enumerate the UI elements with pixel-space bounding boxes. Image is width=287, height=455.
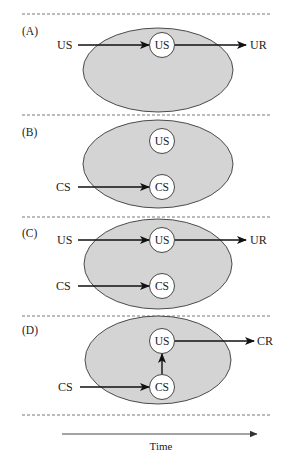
panel-c-output-ur: UR (250, 233, 267, 247)
panel-a-output-ur: UR (250, 38, 267, 52)
panel-b-input-cs: CS (56, 180, 71, 194)
panel-d-label: (D) (22, 324, 38, 337)
panel-d-output-cr: CR (257, 334, 273, 348)
conditioning-diagram: (A) US US UR (B) US CS CS (C) US US UR C… (0, 0, 287, 455)
panel-b-node-cs-label: CS (155, 181, 169, 193)
panel-c-label: (C) (22, 227, 38, 240)
panel-c-node-cs-label: CS (155, 280, 169, 292)
panel-d: (D) US CR CS CS (22, 316, 273, 404)
panel-d-input-cs: CS (58, 380, 73, 394)
panel-b: (B) US CS CS (22, 120, 233, 208)
time-axis: Time (62, 434, 257, 452)
panel-c: (C) US US UR CS CS (22, 219, 267, 309)
panel-a: (A) US US UR (22, 25, 267, 112)
panel-c-node-us-label: US (155, 234, 170, 246)
time-label: Time (150, 440, 173, 452)
panel-b-label: (B) (22, 126, 38, 139)
panel-a-label: (A) (22, 25, 38, 38)
panel-b-node-us-label: US (155, 135, 170, 147)
panel-a-node-us-label: US (155, 39, 170, 51)
panel-a-input-us: US (57, 38, 72, 52)
panel-d-node-us-label: US (155, 335, 170, 347)
panel-c-input-cs: CS (56, 279, 71, 293)
panel-d-node-cs-label: CS (155, 381, 169, 393)
panel-c-input-us: US (57, 233, 72, 247)
